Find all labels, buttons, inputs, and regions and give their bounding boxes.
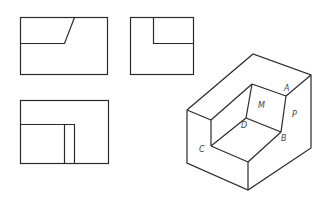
label-b: B	[281, 134, 287, 143]
top-view	[21, 101, 109, 164]
front-view	[21, 18, 108, 75]
left-view	[131, 18, 194, 75]
label-m: M	[258, 101, 265, 110]
diagram-canvas: A B C D M P	[0, 0, 327, 208]
isometric-view	[187, 54, 311, 190]
label-a: A	[283, 84, 289, 93]
label-c: C	[199, 145, 205, 154]
label-p: P	[292, 110, 297, 119]
label-d: D	[241, 121, 247, 130]
